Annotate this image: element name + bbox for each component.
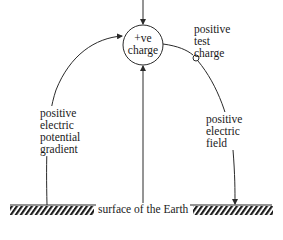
- electric-field-line-1: positive: [206, 113, 242, 125]
- source-charge-label: +ve charge: [125, 32, 161, 56]
- test-charge-line-1: positive: [194, 23, 230, 35]
- electric-field-label: positive electric field: [206, 112, 242, 150]
- earth-surface-label: surface of the Earth: [96, 203, 190, 215]
- electric-field-line-3: field: [206, 137, 242, 149]
- field-line-upper: [163, 44, 193, 55]
- electric-field-line-2: electric: [206, 125, 242, 137]
- source-charge-line-1: +ve: [125, 32, 161, 44]
- potential-gradient-line-4: gradient: [40, 143, 80, 155]
- ground-hatch-left: [10, 206, 94, 215]
- potential-gradient-line-2: electric: [40, 119, 80, 131]
- test-charge-line-2: test: [194, 35, 230, 47]
- potential-gradient-line-1: positive: [40, 107, 80, 119]
- test-charge-label: positive test charge: [194, 23, 230, 59]
- potential-gradient-label: positive electric potential gradient: [40, 106, 80, 156]
- test-charge-line-3: charge: [194, 47, 230, 59]
- potential-gradient-line-3: potential: [40, 131, 80, 143]
- source-charge-line-2: charge: [125, 44, 161, 56]
- ground-hatch-right: [193, 206, 273, 215]
